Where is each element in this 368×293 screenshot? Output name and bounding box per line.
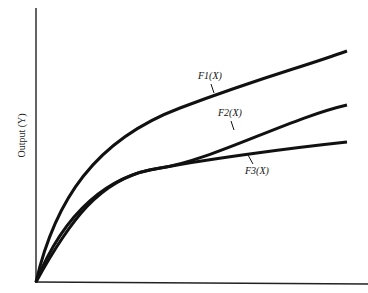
curve-f1	[36, 51, 347, 282]
curve-f3	[36, 142, 347, 282]
curve-f2	[36, 105, 347, 282]
x-axis	[35, 282, 368, 284]
y-axis-label: Output (Y)	[16, 101, 27, 171]
f3-label: F3(X)	[245, 165, 269, 176]
chart-canvas	[0, 0, 368, 293]
f2-pointer	[231, 121, 234, 130]
f1-label: F1(X)	[198, 70, 222, 81]
f2-label: F2(X)	[218, 107, 242, 118]
f3-pointer	[248, 155, 253, 164]
f1-pointer	[211, 84, 214, 93]
